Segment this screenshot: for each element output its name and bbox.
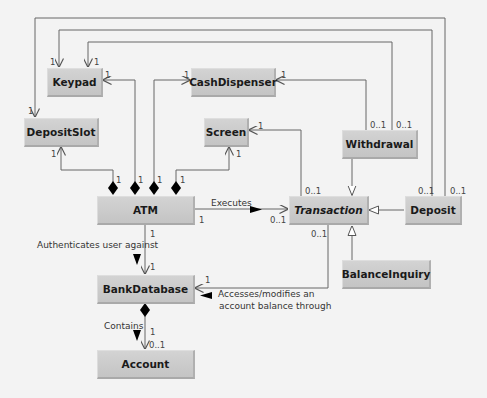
class-screen[interactable]: Screen [204,118,249,147]
class-keypad[interactable]: Keypad [47,68,103,97]
assoc-label-authenticates: Authenticates user against [37,240,158,251]
class-name: Transaction [294,204,363,216]
mult-label: 0..1 [418,187,434,196]
mult-label: 1 [157,176,162,185]
class-name: Withdrawal [346,138,414,150]
uml-diagram: Keypad CashDispenser DepositSlot Screen … [0,0,487,398]
assoc-label-accesses-2: account balance through [219,301,331,312]
mult-label: 0..1 [305,187,321,196]
class-name: ATM [133,204,158,216]
mult-label: 1 [94,58,99,67]
class-deposit[interactable]: Deposit [405,196,462,225]
mult-label: 1 [116,176,121,185]
class-name: Screen [206,126,247,138]
mult-label: 1 [50,58,55,67]
assoc-label-executes: Executes [211,198,252,209]
mult-label: 1 [150,328,155,337]
class-name: Deposit [410,204,455,216]
class-name: Account [122,358,170,370]
mult-label: 0..1 [311,230,327,239]
mult-label: 0..1 [270,216,286,225]
class-balanceinquiry[interactable]: BalanceInquiry [342,260,431,289]
class-cashdispenser[interactable]: CashDispenser [191,68,276,97]
mult-label: 1 [281,71,286,80]
mult-label: 0..1 [149,341,165,350]
class-name: BalanceInquiry [342,268,431,280]
class-name: CashDispenser [189,76,277,88]
class-withdrawal[interactable]: Withdrawal [342,130,418,159]
mult-label: 1 [236,150,241,159]
mult-label: 1 [150,263,155,272]
mult-label: 1 [150,230,155,239]
mult-label: 0..1 [370,121,386,130]
mult-label: 1 [105,71,110,80]
mult-label: 1 [28,107,33,116]
assoc-label-contains: Contains [104,321,143,332]
mult-label: 1 [199,216,204,225]
class-bankdatabase[interactable]: BankDatabase [97,275,195,304]
mult-label: 1 [138,176,143,185]
class-atm[interactable]: ATM [97,196,195,225]
class-depositslot[interactable]: DepositSlot [24,118,99,147]
class-name: Keypad [52,76,96,88]
mult-label: 0..1 [396,121,412,130]
mult-label: 0..1 [450,187,466,196]
class-name: BankDatabase [103,283,188,295]
mult-label: 1 [205,276,210,285]
mult-label: 1 [180,176,185,185]
class-account[interactable]: Account [97,350,195,379]
class-name: DepositSlot [27,126,96,138]
assoc-label-accesses-1: Accesses/modifies an [218,289,315,300]
class-transaction[interactable]: Transaction [289,196,369,225]
mult-label: 1 [184,71,189,80]
mult-label: 1 [258,122,263,131]
direction-triangles [133,206,262,341]
mult-label: 1 [51,150,56,159]
